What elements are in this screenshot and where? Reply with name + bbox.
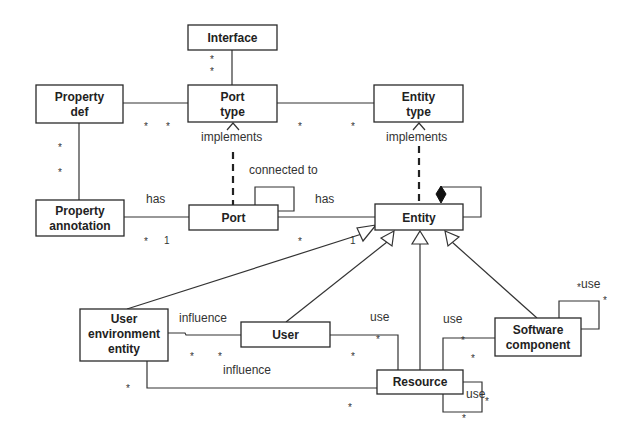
uml-class-diagram: * * * * * * * * implements implements co… [0,0,636,439]
class-port-type: Port type [188,85,277,122]
mult-pd-pa-1: * [58,142,62,153]
class-interface: Interface [188,25,277,50]
generalization-triangle-icon [412,231,428,244]
label-implements-port: implements [201,130,262,144]
class-port-label: Port [222,211,246,225]
class-entity-type: Entity type [374,85,463,122]
arrowhead-entitytype-implements [413,123,425,130]
class-software-component-line2: component [506,338,571,352]
mult-res-self-2: * [462,413,466,424]
class-property-annotation-line2: annotation [49,219,110,233]
label-implements-entity: implements [386,130,447,144]
mult-user-res-2: * [351,351,355,362]
composition-diamond-icon [436,186,446,203]
mult-pa-port-one: 1 [164,235,170,246]
class-entity-label: Entity [402,211,436,225]
class-user-environment-entity: User environment entity [80,309,168,361]
class-user-env-line1: User [111,312,138,326]
class-software-component: Software component [495,318,581,356]
mult-sw-res-1: * [461,335,465,346]
class-interface-label: Interface [207,31,257,45]
mult-sw-self-1: * [577,282,581,293]
label-use-resource-self: use [466,387,486,401]
edge-software-use-resource [443,338,495,370]
class-user: User [241,322,330,347]
class-resource: Resource [377,370,463,394]
mult-sw-self-2: * [603,295,607,306]
class-property-annotation: Property annotation [36,200,124,236]
label-influence-resource: influence [223,363,271,377]
label-has-entity: has [315,192,334,206]
mult-user-res-1: * [376,334,380,345]
label-connected-to: connected to [249,163,318,177]
class-software-component-line1: Software [513,323,564,337]
mult-pd-pa-2: * [58,167,62,178]
mult-sw-res-2: * [471,353,475,364]
class-property-annotation-line1: Property [55,204,105,218]
edge-user-use-resource [330,335,398,370]
label-use-user-resource: use [370,310,390,324]
mult-interface-2: * [210,66,214,77]
class-entity-type-line1: Entity [402,90,436,104]
generalization-triangle-icon [445,231,459,246]
class-resource-label: Resource [393,375,448,389]
mult-pt-et-2: * [351,121,355,132]
mult-pd-pt-1: * [144,121,148,132]
class-port-type-line1: Port [221,90,245,104]
mult-influence-2: * [218,351,222,362]
label-influence-user: influence [179,311,227,325]
mult-pt-et-1: * [298,121,302,132]
class-entity-type-line2: type [406,105,431,119]
mult-res-self-1: * [485,396,489,407]
class-port-type-line2: type [220,105,245,119]
class-property-def-line1: Property [55,90,105,104]
label-use-sw-self: use [581,277,601,291]
arrowhead-porttype-implements [227,123,239,130]
class-user-label: User [272,328,299,342]
label-has-annotation: has [146,192,165,206]
mult-pa-port-star: * [144,236,148,247]
class-property-def: Property def [36,85,123,123]
class-user-env-line2: environment [88,327,160,341]
class-port: Port [189,205,278,230]
edge-userenv-influence-user [168,333,241,335]
mult-ue-res-2: * [348,402,352,413]
mult-influence-1: * [190,351,194,362]
generalization-triangle-icon [357,225,376,241]
label-use-sw-resource: use [443,312,463,326]
class-entity: Entity [375,204,463,230]
mult-ue-res-1: * [126,383,130,394]
class-property-def-line2: def [71,105,90,119]
edge-software-generalizes-entity [452,242,537,318]
class-user-env-line3: entity [108,342,140,356]
mult-interface-1: * [210,54,214,65]
generalization-triangle-icon [381,231,394,246]
mult-pd-pt-2: * [166,121,170,132]
mult-port-entity-star: * [298,236,302,247]
